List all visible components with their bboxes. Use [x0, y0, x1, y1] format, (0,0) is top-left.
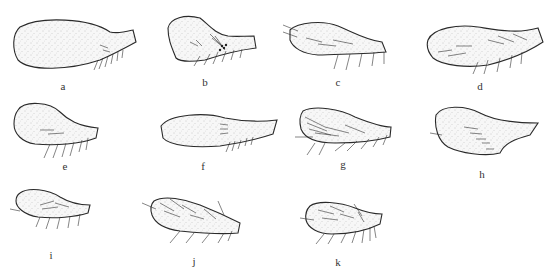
panel-k: k — [300, 200, 395, 272]
drawing-k — [300, 200, 395, 260]
drawing-h — [430, 103, 550, 163]
panel-label-d: d — [470, 80, 490, 92]
panel-g: g — [295, 103, 405, 178]
drawing-i — [10, 187, 100, 247]
drawing-f — [155, 108, 285, 168]
panel-j: j — [140, 195, 250, 272]
panel-label-j: j — [184, 255, 204, 267]
panel-e: e — [0, 98, 110, 178]
panel-label-h: h — [472, 168, 492, 180]
panel-label-g: g — [333, 158, 353, 170]
drawing-j — [140, 195, 250, 255]
panel-label-b: b — [195, 76, 215, 88]
panel-label-k: k — [328, 256, 348, 268]
drawing-g — [295, 103, 405, 163]
drawing-d — [418, 0, 550, 90]
drawing-b — [160, 0, 270, 90]
panel-i: i — [10, 187, 100, 272]
panel-label-a: a — [53, 80, 73, 92]
drawing-e — [0, 98, 110, 158]
panel-label-e: e — [55, 160, 75, 172]
panel-label-i: i — [41, 249, 61, 261]
panel-label-c: c — [328, 76, 348, 88]
panel-h: h — [430, 103, 550, 183]
panel-f: f — [155, 108, 285, 178]
panel-label-f: f — [193, 160, 213, 172]
drawing-a — [0, 0, 140, 90]
